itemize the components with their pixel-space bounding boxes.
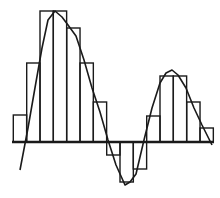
bar-3 <box>40 11 53 142</box>
function-curve <box>20 11 212 185</box>
bar-1 <box>13 115 26 142</box>
bar-5 <box>67 28 80 142</box>
bar-7 <box>93 102 106 142</box>
riemann-sum-diagram <box>0 0 220 198</box>
bar-6 <box>80 63 93 142</box>
bar-9 <box>120 142 133 182</box>
bar-12 <box>160 76 173 142</box>
bar-4 <box>53 11 66 142</box>
